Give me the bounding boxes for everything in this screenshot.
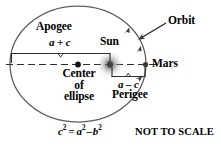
orbit-diagram: Apogee a + c Sun Orbit Mars a – c Perige… bbox=[0, 0, 221, 153]
label-orbit: Orbit bbox=[168, 15, 195, 27]
equation-c-squared: c2=a2–b2 bbox=[58, 126, 102, 137]
mars-dot bbox=[143, 62, 148, 67]
eq-equals: = bbox=[68, 125, 74, 137]
label-mars: Mars bbox=[152, 58, 178, 70]
label-center-of-ellipse: Center of ellipse bbox=[50, 68, 108, 103]
label-center-line-3: ellipse bbox=[50, 91, 108, 103]
not-to-scale-note: NOT TO SCALE bbox=[135, 127, 214, 138]
eq-rhs2-exp: 2 bbox=[98, 124, 102, 132]
eq-minus: – bbox=[86, 125, 91, 137]
apogee-measure-brace bbox=[12, 54, 111, 63]
label-apogee-measure: a + c bbox=[49, 37, 71, 48]
label-center-line-1: Center bbox=[50, 68, 108, 80]
label-perigee: Perigee bbox=[112, 89, 148, 101]
orbit-direction-arrows bbox=[123, 27, 143, 82]
label-sun: Sun bbox=[100, 36, 119, 48]
orbit-leader-line bbox=[141, 23, 166, 38]
eq-lhs-exp: 2 bbox=[63, 124, 67, 132]
eq-rhs1-exp: 2 bbox=[82, 124, 86, 132]
label-apogee: Apogee bbox=[36, 21, 72, 33]
